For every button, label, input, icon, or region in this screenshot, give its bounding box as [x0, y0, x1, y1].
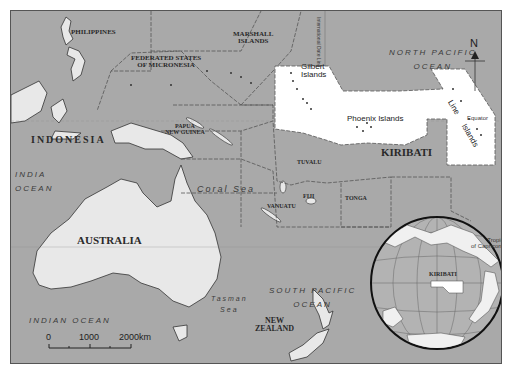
label-spo-line2: OCEAN: [269, 301, 356, 309]
label-tonga: TONGA: [345, 195, 367, 201]
label-gilbert-line2: Islands: [301, 71, 326, 79]
label-indian-ocean: INDIAN OCEAN: [29, 317, 111, 325]
label-marshall-islands: MARSHALL ISLANDS: [233, 31, 273, 45]
label-npo-line1: NORTH PACIFIC: [389, 49, 476, 57]
label-north-pacific-ocean: NORTH PACIFIC OCEAN: [389, 49, 476, 71]
label-micronesia-line2: OF MICRONESIA: [131, 62, 201, 69]
label-south-pacific-ocean: SOUTH PACIFIC OCEAN: [269, 287, 356, 309]
label-tuvalu: TUVALU: [297, 159, 322, 165]
label-philippines: PHILIPPINES: [71, 29, 116, 36]
label-tasman-sea: Tasman Sea: [211, 295, 248, 313]
label-india-ocean: INDIA OCEAN: [15, 171, 53, 193]
label-spo-line1: SOUTH PACIFIC: [269, 287, 356, 295]
label-india-line1: INDIA: [15, 171, 53, 179]
scale-tick-1000: 1000: [79, 333, 99, 342]
label-npo-line2: OCEAN: [389, 63, 476, 71]
scale-bar: [49, 344, 131, 348]
label-inset-kiribati: KIRIBATI: [429, 271, 457, 277]
label-indonesia: INDONESIA: [31, 135, 106, 145]
scale-tick-2000: 2000km: [119, 333, 151, 342]
label-tasman-line2: Sea: [211, 306, 248, 313]
label-vanuatu: VANUATU: [267, 203, 296, 209]
label-phoenix-islands: Phoenix Islands: [347, 115, 403, 123]
scale-tick-2000-value: 2000: [119, 332, 139, 342]
label-png-line2: NEW GUINEA: [165, 129, 205, 135]
label-gilbert-islands: Gilbert Islands: [301, 63, 326, 79]
label-marshall-line2: ISLANDS: [233, 38, 273, 45]
label-india-line2: OCEAN: [15, 185, 53, 193]
label-date-line: International Date Line: [316, 17, 321, 67]
label-equator: Equator: [467, 115, 488, 121]
label-kiribati: KIRIBATI: [381, 147, 432, 158]
label-australia: AUSTRALIA: [77, 235, 142, 246]
scale-unit: km: [139, 332, 151, 342]
label-fiji: FIJI: [303, 193, 314, 199]
label-new-zealand: NEW ZEALAND: [255, 317, 294, 333]
north-label: N: [470, 38, 478, 49]
scale-tick-0: 0: [46, 333, 51, 342]
label-papua-new-guinea: PAPUA NEW GUINEA: [165, 123, 205, 135]
label-micronesia: FEDERATED STATES OF MICRONESIA: [131, 55, 201, 69]
label-coral-sea: Coral Sea: [197, 185, 255, 194]
label-nz-line2: ZEALAND: [255, 325, 294, 333]
label-tropic-line2: of Capricorn: [471, 243, 502, 249]
label-tasman-line1: Tasman: [211, 295, 248, 302]
label-tropic-of-capricorn: Tropic of Capricorn: [471, 237, 502, 249]
map-frame: PHILIPPINES FEDERATED STATES OF MICRONES…: [10, 10, 502, 364]
